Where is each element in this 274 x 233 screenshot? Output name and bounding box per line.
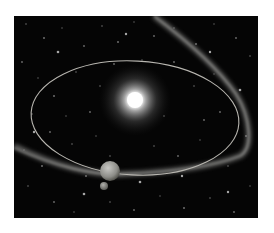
starfield-scene	[14, 16, 258, 218]
moon	[100, 182, 108, 190]
planet	[100, 161, 120, 181]
star-core	[127, 92, 143, 108]
space-illustration	[14, 16, 258, 218]
